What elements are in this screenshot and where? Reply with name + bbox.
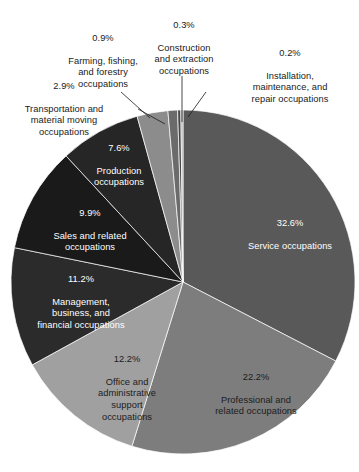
pie-slice-group [11, 110, 355, 454]
pie-chart-figure: 32.6% Service occupations 22.2% Professi… [0, 0, 359, 472]
leader-line-transportation [121, 92, 150, 118]
pie-chart-canvas [0, 0, 359, 472]
